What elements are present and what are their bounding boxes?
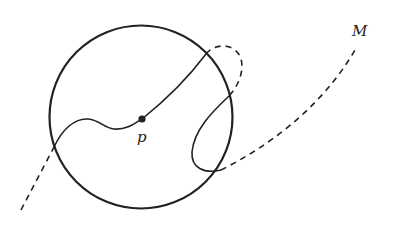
manifold-solid-upper <box>142 54 206 119</box>
manifold-dashed-left <box>21 147 54 210</box>
manifold-solid-left <box>54 119 142 147</box>
point-p-label: p <box>137 128 147 146</box>
manifold-dashed-right <box>221 50 355 170</box>
manifold-m-label: M <box>351 22 368 40</box>
manifold-dashed-loop <box>206 46 242 96</box>
manifold-solid-loop <box>192 96 229 171</box>
point-p-dot <box>138 115 145 122</box>
diagram-canvas: p M <box>0 0 398 225</box>
